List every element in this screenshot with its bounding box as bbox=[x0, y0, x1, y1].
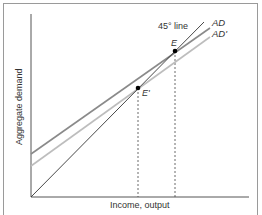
x-axis-label: Income, output bbox=[110, 200, 170, 210]
label-ad-prime: AD' bbox=[211, 28, 228, 39]
y-axis-label: Aggregate demand bbox=[14, 68, 24, 145]
chart: 45° line AD AD' E E' Income, output Aggr… bbox=[0, 0, 262, 215]
45-degree-line bbox=[31, 22, 204, 197]
label-45-line: 45° line bbox=[158, 21, 188, 31]
ad-prime-line bbox=[31, 37, 210, 166]
ad-line bbox=[31, 28, 210, 154]
label-e-prime: E' bbox=[142, 88, 150, 98]
point-e bbox=[173, 49, 178, 54]
label-ad: AD bbox=[211, 17, 225, 28]
label-e: E bbox=[171, 38, 178, 48]
point-e-prime bbox=[136, 86, 141, 91]
